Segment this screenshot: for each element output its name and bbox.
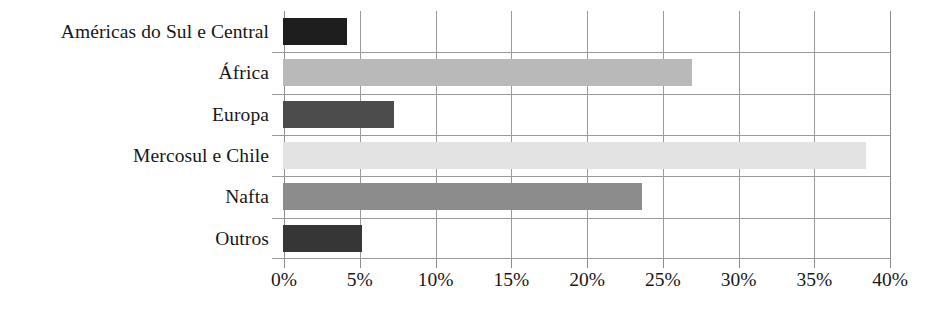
x-axis: 0%5%10%15%20%25%30%35%40% bbox=[284, 259, 890, 311]
x-tick bbox=[739, 259, 740, 268]
bar-row bbox=[284, 94, 890, 135]
category-label: Nafta bbox=[0, 176, 277, 217]
bar-row bbox=[284, 135, 890, 176]
x-tick bbox=[360, 259, 361, 268]
x-tick-label: 0% bbox=[271, 270, 297, 290]
x-tick-label: 15% bbox=[493, 270, 529, 290]
horizontal-bar-chart: Américas do Sul e CentralÁfricaEuropaMer… bbox=[0, 0, 928, 311]
bar bbox=[283, 142, 866, 169]
x-tick-label: 5% bbox=[347, 270, 373, 290]
category-label: Outros bbox=[0, 218, 277, 259]
x-tick-label: 25% bbox=[645, 270, 681, 290]
bar bbox=[283, 225, 362, 252]
x-tick bbox=[890, 259, 891, 268]
bar-row bbox=[284, 11, 890, 52]
bar-row bbox=[284, 52, 890, 93]
plot-area bbox=[284, 11, 890, 259]
category-label: Américas do Sul e Central bbox=[0, 11, 277, 52]
bar-row bbox=[284, 176, 890, 217]
x-tick bbox=[284, 259, 285, 268]
bar-series bbox=[284, 11, 890, 259]
bar bbox=[283, 59, 692, 86]
x-tick-label: 20% bbox=[569, 270, 605, 290]
x-tick bbox=[814, 259, 815, 268]
x-tick-label: 30% bbox=[721, 270, 757, 290]
category-label: Mercosul e Chile bbox=[0, 135, 277, 176]
category-axis: Américas do Sul e CentralÁfricaEuropaMer… bbox=[0, 11, 277, 259]
bar bbox=[283, 183, 642, 210]
x-tick bbox=[511, 259, 512, 268]
gridline-vertical bbox=[890, 11, 891, 268]
x-tick bbox=[587, 259, 588, 268]
x-tick-label: 35% bbox=[796, 270, 832, 290]
x-tick bbox=[436, 259, 437, 268]
x-tick-label: 40% bbox=[872, 270, 908, 290]
bar bbox=[283, 101, 394, 128]
bar bbox=[283, 18, 347, 45]
category-label: Europa bbox=[0, 94, 277, 135]
x-tick-label: 10% bbox=[418, 270, 454, 290]
x-tick bbox=[663, 259, 664, 268]
category-label: África bbox=[0, 52, 277, 93]
bar-row bbox=[284, 218, 890, 259]
